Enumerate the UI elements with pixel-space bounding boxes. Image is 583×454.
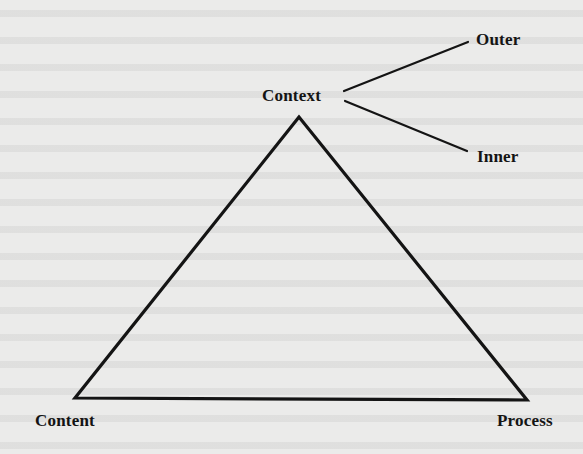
node-label-context: Context xyxy=(262,87,321,104)
node-label-process: Process xyxy=(497,412,553,429)
node-label-outer: Outer xyxy=(476,31,520,48)
edge-context-outer xyxy=(344,42,468,91)
diagram-canvas xyxy=(0,0,583,454)
triangle-context-content-process xyxy=(75,117,527,400)
node-label-content: Content xyxy=(35,412,95,429)
edge-context-inner xyxy=(345,101,467,151)
node-label-inner: Inner xyxy=(477,148,519,165)
